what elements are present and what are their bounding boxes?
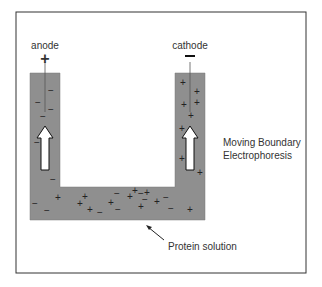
negative-charge-icon: − xyxy=(35,97,41,108)
negative-charge-icon: − xyxy=(48,85,54,96)
electrophoresis-diagram: anode + cathode −−−−−−++++++++−+−++−+−+−… xyxy=(0,0,322,287)
diagram-title-line2: Electrophoresis xyxy=(223,150,292,161)
anode-sign: + xyxy=(40,50,49,67)
negative-charge-icon: − xyxy=(40,111,46,122)
negative-charge-icon: − xyxy=(114,188,120,199)
cathode-sign-icon xyxy=(185,55,195,57)
positive-charge-icon: + xyxy=(82,191,88,202)
positive-charge-icon: + xyxy=(87,204,93,215)
positive-charge-icon: + xyxy=(187,204,193,215)
negative-charge-icon: − xyxy=(48,104,54,115)
negative-charge-icon: − xyxy=(32,198,38,209)
negative-charge-icon: − xyxy=(34,137,40,148)
negative-charge-icon: − xyxy=(44,205,50,216)
negative-charge-icon: − xyxy=(97,207,103,218)
positive-charge-icon: + xyxy=(55,192,61,203)
negative-charge-icon: − xyxy=(163,192,169,203)
positive-charge-icon: + xyxy=(108,197,114,208)
positive-charge-icon: + xyxy=(194,86,200,97)
negative-charge-icon: − xyxy=(115,204,121,215)
cathode-label: cathode xyxy=(172,40,208,51)
diagram-title-line1: Moving Boundary xyxy=(223,137,301,148)
positive-charge-icon: + xyxy=(194,97,200,108)
positive-charge-icon: + xyxy=(144,187,150,198)
positive-charge-icon: + xyxy=(179,153,185,164)
positive-charge-icon: + xyxy=(197,167,203,178)
positive-charge-icon: + xyxy=(154,196,160,207)
positive-charge-icon: + xyxy=(181,99,187,110)
positive-charge-icon: + xyxy=(179,123,185,134)
negative-charge-icon: − xyxy=(168,203,174,214)
negative-charge-icon: − xyxy=(50,174,56,185)
positive-charge-icon: + xyxy=(188,110,194,121)
protein-solution-label: Protein solution xyxy=(168,241,237,252)
positive-charge-icon: + xyxy=(180,77,186,88)
